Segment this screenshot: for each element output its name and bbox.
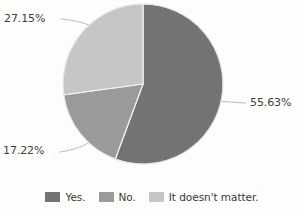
legend-swatch-matter bbox=[149, 192, 164, 202]
legend-item-matter[interactable]: It doesn't matter. bbox=[149, 191, 259, 203]
pie-slice-matter[interactable] bbox=[63, 4, 143, 95]
pie-label-matter-percent: 27.15% bbox=[4, 12, 45, 25]
chart-legend: Yes. No. It doesn't matter. bbox=[0, 186, 304, 208]
pie-slices-group bbox=[63, 4, 223, 164]
pie-chart-figure: 27.15% 17.22% 55.63% Yes. No. It doesn't… bbox=[0, 0, 304, 216]
legend-swatch-no bbox=[99, 192, 114, 202]
legend-swatch-yes bbox=[45, 192, 60, 202]
legend-label-yes: Yes. bbox=[65, 191, 85, 203]
pie-label-yes-percent: 55.63% bbox=[250, 96, 291, 109]
legend-label-matter: It doesn't matter. bbox=[169, 191, 259, 203]
legend-item-no[interactable]: No. bbox=[99, 191, 136, 203]
pie-label-no-percent: 17.22% bbox=[3, 144, 44, 157]
legend-label-no: No. bbox=[119, 191, 136, 203]
legend-item-yes[interactable]: Yes. bbox=[45, 191, 85, 203]
